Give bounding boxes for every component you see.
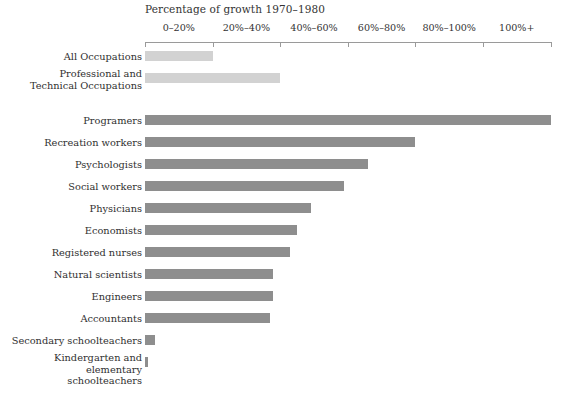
bar — [145, 291, 273, 301]
x-axis-tick — [348, 42, 349, 47]
bar-row-label: Natural scientists — [2, 269, 142, 281]
bar-row: Social workers — [0, 180, 566, 202]
bar — [145, 203, 311, 213]
x-axis-tick-label: 40%–60% — [290, 22, 337, 33]
bar-row-label: Accountants — [2, 313, 142, 325]
bar — [145, 181, 344, 191]
bar-row-label: Physicians — [2, 203, 142, 215]
x-axis-tick — [145, 42, 146, 47]
bar — [145, 225, 297, 235]
x-axis-tick — [213, 42, 214, 47]
bar-row: Physicians — [0, 202, 566, 224]
x-axis-tick-label: 60%–80% — [358, 22, 405, 33]
bar-row-label: Engineers — [2, 291, 142, 303]
bar-row: Registered nurses — [0, 246, 566, 268]
bar-row: Engineers — [0, 290, 566, 312]
bar-row: Natural scientists — [0, 268, 566, 290]
bar-row: Programers — [0, 114, 566, 136]
bar-row-label: Programers — [2, 115, 142, 127]
x-axis-tick — [280, 42, 281, 47]
bar-row-label: Professional and Technical Occupations — [2, 68, 142, 91]
bar-row-label: Registered nurses — [2, 247, 142, 259]
bar-row-label: Recreation workers — [2, 137, 142, 149]
chart-title: Percentage of growth 1970–1980 — [145, 3, 325, 15]
bar-row-label: Kindergarten and elementary schoolteache… — [2, 352, 142, 387]
bar-row-label: All Occupations — [2, 51, 142, 63]
x-axis-tick — [551, 42, 552, 47]
x-axis-tick-label: 100%+ — [499, 22, 534, 33]
x-axis-tick-label: 80%–100% — [422, 22, 476, 33]
bar — [145, 137, 415, 147]
bar — [145, 335, 155, 345]
bar-row: Psychologists — [0, 158, 566, 180]
x-axis: 0–20%20%–40%40%–60%60%–80%80%–100%100%+ — [0, 22, 566, 50]
x-axis-tick-label: 20%–40% — [223, 22, 270, 33]
bar-row-label: Social workers — [2, 181, 142, 193]
bar-row: Kindergarten and elementary schoolteache… — [0, 356, 566, 378]
bar — [145, 357, 148, 367]
bar — [145, 115, 551, 125]
bar — [145, 269, 273, 279]
growth-bar-chart: Percentage of growth 1970–1980 0–20%20%–… — [0, 0, 566, 397]
bar-row-label: Psychologists — [2, 159, 142, 171]
x-axis-tick — [483, 42, 484, 47]
x-axis-tick-label: 0–20% — [163, 22, 195, 33]
bar-row: Economists — [0, 224, 566, 246]
x-axis-tick — [415, 42, 416, 47]
bar — [145, 247, 290, 257]
bar-row: Professional and Technical Occupations — [0, 72, 566, 94]
bar — [145, 51, 213, 61]
bar-row-label: Secondary schoolteachers — [2, 335, 142, 347]
bar — [145, 313, 270, 323]
bar — [145, 73, 280, 83]
bar — [145, 159, 368, 169]
bar-row-label: Economists — [2, 225, 142, 237]
bar-row: Recreation workers — [0, 136, 566, 158]
bar-row: Accountants — [0, 312, 566, 334]
